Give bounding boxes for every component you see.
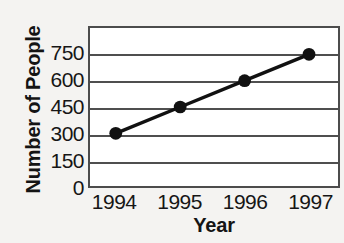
x-axis-tick-labels: 1994199519961997	[0, 190, 338, 216]
x-axis-tick-label: 1994	[79, 190, 149, 213]
x-axis-title: Year	[88, 214, 340, 237]
y-axis-tick-label: 750	[34, 42, 84, 63]
plot-area	[88, 26, 340, 188]
x-axis-tick-label: 1996	[210, 190, 280, 213]
data-point-marker	[174, 101, 187, 114]
data-point-marker	[109, 127, 122, 140]
x-axis-tick-label: 1995	[145, 190, 215, 213]
data-series-layer	[90, 28, 338, 186]
series-line	[116, 54, 309, 133]
y-axis-tick-label: 450	[34, 96, 84, 117]
y-axis-tick-label: 300	[34, 123, 84, 144]
data-point-marker	[303, 48, 316, 61]
y-axis-tick-label: 150	[34, 150, 84, 171]
y-axis-tick-label: 600	[34, 69, 84, 90]
x-axis-tick-label: 1997	[276, 190, 344, 213]
data-point-marker	[238, 74, 251, 87]
